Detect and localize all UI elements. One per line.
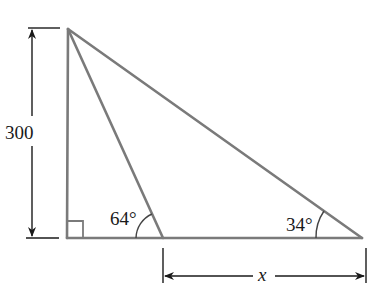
diagram-canvas [0, 0, 379, 295]
base-label-x: x [258, 265, 266, 284]
angle-label-34: 34° [286, 215, 313, 234]
triangle-diagram: 300 64° 34° x [0, 0, 379, 295]
right-angle-marker [67, 221, 83, 238]
vertical-side [67, 29, 68, 238]
angle-label-64: 64° [110, 209, 137, 228]
angle-arc-34 [316, 211, 324, 238]
hypotenuse-inner [68, 29, 163, 238]
height-label: 300 [5, 123, 34, 142]
hypotenuse-long [68, 29, 362, 238]
angle-arc-64 [136, 214, 152, 238]
triangle [67, 29, 362, 238]
